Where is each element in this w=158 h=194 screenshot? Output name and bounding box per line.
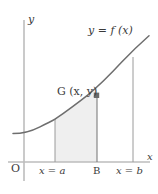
x-equals-b-label: x = b bbox=[116, 166, 143, 176]
point-b-label: B bbox=[93, 166, 100, 176]
curve-equation-label: y = f (x) bbox=[88, 25, 133, 36]
x-axis-label: x bbox=[147, 152, 153, 162]
area-under-curve-figure: y x O y = f (x) G (x, y) x = a B x = b bbox=[0, 0, 158, 194]
shaded-area-region bbox=[55, 88, 97, 162]
y-axis-label: y bbox=[28, 14, 34, 25]
point-g-label: G (x, y) bbox=[57, 86, 97, 97]
x-equals-a-label: x = a bbox=[39, 166, 65, 176]
origin-label: O bbox=[11, 163, 20, 174]
